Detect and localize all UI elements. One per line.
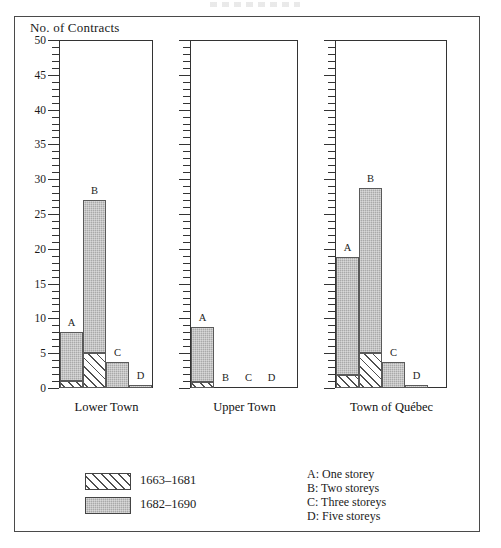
y-tick-21 [328,242,335,243]
y-tick-23 [52,228,59,229]
y-tick-2 [52,374,59,375]
y-axis-ticks-panel-2 [176,0,190,548]
y-tick-25 [48,214,59,215]
y-tick-16 [52,277,59,278]
y-tick-48 [52,54,59,55]
bar-letter-lower-town-C: C [114,347,121,358]
y-tick-46 [52,68,59,69]
y-tick-24 [328,221,335,222]
y-tick-2 [328,374,335,375]
y-tick-label-15: 15 [18,278,46,290]
y-tick-30 [324,179,335,180]
y-tick-22 [328,235,335,236]
y-tick-8 [52,332,59,333]
y-tick-3 [52,367,59,368]
bar-town-of-quebec-B-1663-1681 [359,353,382,388]
y-tick-14 [328,291,335,292]
y-tick-15 [324,284,335,285]
y-tick-label-45: 45 [18,69,46,81]
bar-lower-town-A-1663-1681 [60,381,83,388]
y-tick-4 [183,360,190,361]
bar-lower-town-A-1682-1690 [60,332,83,381]
bar-letter-lower-town-B: B [91,185,98,196]
y-tick-33 [328,158,335,159]
bar-lower-town-C-1682-1690 [106,362,129,388]
y-tick-30 [179,179,190,180]
y-tick-44 [183,82,190,83]
y-tick-47 [183,61,190,62]
bar-upper-town-A-1682-1690 [191,327,214,382]
y-tick-43 [183,89,190,90]
y-tick-label-30: 30 [18,173,46,185]
y-tick-17 [183,270,190,271]
y-tick-19 [52,256,59,257]
y-tick-34 [183,151,190,152]
y-tick-27 [52,200,59,201]
y-axis-ticks-panel-3 [321,0,335,548]
y-tick-41 [52,103,59,104]
y-tick-29 [328,186,335,187]
y-tick-42 [183,96,190,97]
y-tick-29 [52,186,59,187]
y-tick-28 [183,193,190,194]
bar-letter-town-of-quebec-B: B [367,173,374,184]
y-tick-27 [183,200,190,201]
y-tick-31 [328,172,335,173]
figure-root: No. of Contracts 05101520253035404550 AB… [0,0,501,548]
y-tick-13 [52,298,59,299]
y-tick-15 [179,284,190,285]
y-tick-20 [48,249,59,250]
y-tick-32 [328,165,335,166]
y-tick-11 [183,311,190,312]
y-tick-7 [183,339,190,340]
key-entry-d: D: Five storeys [307,509,380,524]
y-tick-37 [183,130,190,131]
y-tick-35 [179,144,190,145]
y-tick-45 [324,75,335,76]
y-tick-4 [328,360,335,361]
bar-letter-town-of-quebec-A: A [344,242,352,253]
legend-swatch-1663-1681 [85,473,131,490]
bar-town-of-quebec-C-1682-1690 [382,362,405,388]
y-tick-45 [48,75,59,76]
y-tick-19 [328,256,335,257]
y-tick-16 [328,277,335,278]
y-tick-39 [328,117,335,118]
bar-lower-town-B-1663-1681 [83,353,106,388]
y-tick-17 [328,270,335,271]
bar-letter-lower-town-D: D [137,370,145,381]
y-tick-12 [183,304,190,305]
y-tick-49 [328,47,335,48]
y-tick-48 [183,54,190,55]
y-tick-3 [183,367,190,368]
y-tick-10 [48,318,59,319]
y-tick-9 [52,325,59,326]
y-tick-14 [183,291,190,292]
y-tick-label-50: 50 [18,34,46,46]
y-tick-24 [183,221,190,222]
y-tick-35 [324,144,335,145]
bar-letter-town-of-quebec-C: C [390,347,397,358]
y-tick-0 [179,388,190,389]
y-tick-4 [52,360,59,361]
group-label-lower-town: Lower Town [75,400,139,415]
y-tick-41 [183,103,190,104]
legend-label-1682-1690: 1682–1690 [140,497,196,512]
y-tick-20 [179,249,190,250]
y-tick-10 [324,318,335,319]
bar-town-of-quebec-A-1682-1690 [336,257,359,375]
legend-swatch-1682-1690 [85,497,131,514]
y-tick-35 [48,144,59,145]
y-axis-ticks-panel-1 [45,0,59,548]
y-tick-13 [328,298,335,299]
bar-upper-town-A-1663-1681 [191,382,214,388]
y-tick-48 [328,54,335,55]
y-tick-2 [183,374,190,375]
y-tick-15 [48,284,59,285]
y-tick-label-25: 25 [18,208,46,220]
y-tick-24 [52,221,59,222]
y-tick-46 [328,68,335,69]
y-tick-19 [183,256,190,257]
y-tick-45 [179,75,190,76]
y-tick-42 [328,96,335,97]
